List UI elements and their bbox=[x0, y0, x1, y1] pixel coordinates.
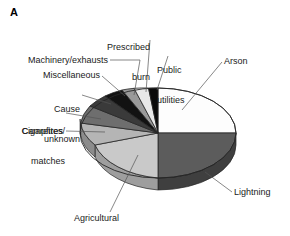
figure-panel-a: A bbox=[0, 0, 290, 236]
leader-line-lightning bbox=[205, 172, 232, 192]
label-agricultural: Agricultural bbox=[74, 213, 154, 223]
label-miscellaneous: Miscellaneous bbox=[18, 70, 100, 80]
label-public-utilities: Public utilities bbox=[157, 45, 217, 125]
label-cigarettes-matches-line2: matches bbox=[3, 156, 65, 166]
label-public-utilities-line2: utilities bbox=[157, 95, 217, 105]
label-cigarettes-matches: Cigarettes/ matches bbox=[3, 106, 65, 186]
label-arson: Arson bbox=[224, 56, 274, 66]
pie-slice-lightning[interactable] bbox=[158, 133, 236, 178]
label-public-utilities-line1: Public bbox=[157, 65, 217, 75]
label-machinery-exhausts: Machinery/exhausts bbox=[8, 55, 108, 65]
label-prescribed-burn-line1: Prescribed bbox=[78, 42, 150, 52]
label-campfires: Campfires bbox=[3, 126, 63, 136]
label-lightning: Lightning bbox=[234, 187, 290, 197]
